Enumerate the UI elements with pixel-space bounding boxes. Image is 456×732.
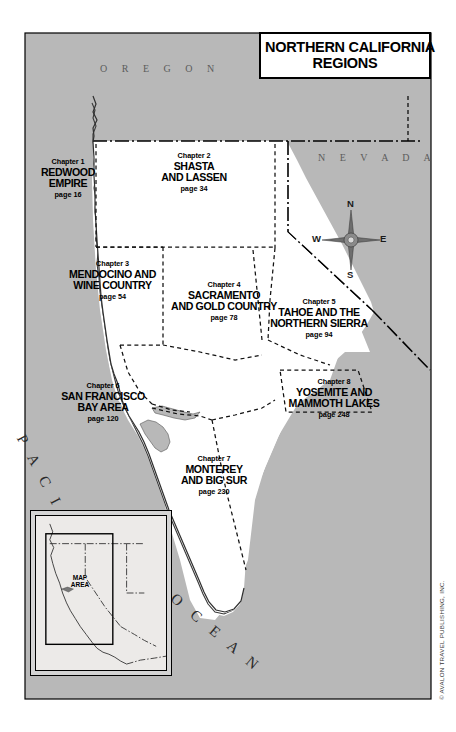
chapter-label-5[interactable]: Chapter 5 TAHOE AND THE NORTHERN SIERRA … — [258, 298, 380, 338]
title-line-2: REGIONS — [265, 55, 425, 71]
chapter-2-number: Chapter 2 — [138, 152, 250, 160]
chapter-3-page: page 54 — [55, 293, 170, 301]
chapter-3-name-line2: WINE COUNTRY — [55, 280, 170, 291]
map-title-box: NORTHERN CALIFORNIA REGIONS — [259, 32, 431, 79]
chapter-7-number: Chapter 7 — [158, 455, 270, 463]
map-page: NORTHERN CALIFORNIA REGIONS O R E G O N … — [0, 0, 456, 732]
chapter-6-page: page 120 — [42, 415, 164, 423]
state-label-oregon: O R E G O N — [100, 63, 220, 74]
chapter-5-page: page 94 — [258, 331, 380, 339]
chapter-5-name-line2: NORTHERN SIERRA — [258, 318, 380, 329]
title-line-1: NORTHERN CALIFORNIA — [265, 39, 425, 55]
chapter-6-name-line2: BAY AREA — [42, 402, 164, 413]
inset-label-line1: MAP — [73, 574, 87, 581]
inset-locator-map[interactable]: MAP AREA — [30, 510, 172, 676]
chapter-label-8[interactable]: Chapter 8 YOSEMITE AND MAMMOTH LAKES pag… — [272, 378, 396, 418]
compass-east-label: E — [380, 233, 386, 244]
inset-map-graphic — [36, 516, 166, 670]
chapter-2-name-line2: AND LASSEN — [138, 172, 250, 183]
chapter-label-3[interactable]: Chapter 3 MENDOCINO AND WINE COUNTRY pag… — [55, 260, 170, 300]
chapter-6-number: Chapter 6 — [42, 382, 164, 390]
state-label-nevada: N E V A D A — [318, 152, 437, 163]
chapter-label-7[interactable]: Chapter 7 MONTEREY AND BIG SUR page 230 — [158, 455, 270, 495]
chapter-7-name-line2: AND BIG SUR — [158, 475, 270, 486]
chapter-7-page: page 230 — [158, 488, 270, 496]
compass-rose: N S W E — [312, 198, 390, 282]
chapter-2-page: page 34 — [138, 185, 250, 193]
inset-inner-frame: MAP AREA — [35, 515, 167, 671]
chapter-3-number: Chapter 3 — [55, 260, 170, 268]
compass-west-label: W — [312, 233, 321, 244]
chapter-8-name-line2: MAMMOTH LAKES — [272, 398, 396, 409]
chapter-8-page: page 248 — [272, 411, 396, 419]
inset-map-area-label: MAP AREA — [65, 574, 95, 589]
chapter-1-number: Chapter 1 — [26, 158, 110, 166]
chapter-1-page: page 16 — [26, 191, 110, 199]
chapter-label-1[interactable]: Chapter 1 REDWOOD EMPIRE page 16 — [26, 158, 110, 198]
chapter-5-number: Chapter 5 — [258, 298, 380, 306]
chapter-1-name-line2: EMPIRE — [26, 178, 110, 189]
chapter-label-6[interactable]: Chapter 6 SAN FRANCISCO BAY AREA page 12… — [42, 382, 164, 422]
compass-south-label: S — [347, 269, 353, 280]
copyright-notice: © AVALON TRAVEL PUBLISHING, INC. — [438, 580, 445, 700]
chapter-4-number: Chapter 4 — [160, 281, 288, 289]
chapter-8-number: Chapter 8 — [272, 378, 396, 386]
chapter-label-2[interactable]: Chapter 2 SHASTA AND LASSEN page 34 — [138, 152, 250, 192]
compass-north-label: N — [347, 198, 354, 209]
inset-label-line2: AREA — [71, 581, 89, 588]
